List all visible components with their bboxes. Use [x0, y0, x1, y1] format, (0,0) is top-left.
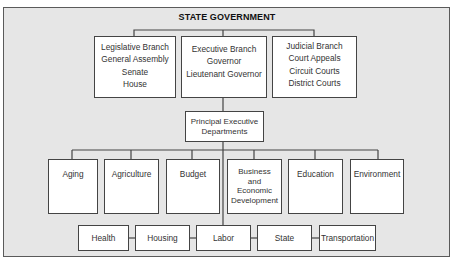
branch-line: Senate	[95, 66, 175, 78]
department-agriculture: Agriculture	[104, 159, 159, 214]
department-label: and	[228, 177, 281, 187]
department-transportation: Transportation	[319, 225, 376, 251]
branch-line: District Courts	[273, 77, 356, 89]
branch-line: Governor	[182, 55, 266, 67]
department-aging: Aging	[48, 159, 98, 214]
principal-line: Principal Executive	[191, 117, 259, 127]
department-health: Health	[78, 225, 129, 251]
department-label: Aging	[49, 168, 97, 180]
branch-line: Court Appeals	[273, 52, 356, 64]
branch-line: Circuit Courts	[273, 65, 356, 77]
department-label: Agriculture	[105, 168, 158, 180]
department-label: Business	[228, 167, 281, 177]
department-business-economic-development: Business and Economic Development	[227, 159, 282, 214]
department-environment: Environment	[350, 159, 404, 214]
department-label: Health	[92, 232, 116, 244]
department-housing: Housing	[135, 225, 190, 251]
department-label: Housing	[147, 232, 177, 244]
department-label: Economic	[228, 186, 281, 196]
principal-executive-departments-box: Principal Executive Departments	[185, 111, 264, 142]
department-label: Budget	[167, 168, 219, 180]
department-labor: Labor	[196, 225, 251, 251]
branch-line: Lieutenant Governor	[182, 68, 266, 80]
department-label: Environment	[351, 168, 403, 180]
branch-line: Judicial Branch	[273, 40, 356, 52]
legislative-branch-box: Legislative Branch General Assembly Sena…	[94, 36, 176, 98]
executive-branch-box: Executive Branch Governor Lieutenant Gov…	[181, 36, 267, 98]
branch-line: House	[95, 78, 175, 90]
branch-line: Executive Branch	[182, 43, 266, 55]
department-label: Transportation	[321, 232, 374, 244]
department-label: State	[275, 232, 294, 244]
department-label: Labor	[213, 232, 234, 244]
department-budget: Budget	[166, 159, 220, 214]
department-label: Development	[228, 196, 281, 206]
branch-line: Legislative Branch	[95, 41, 175, 53]
department-education: Education	[288, 159, 343, 214]
principal-line: Departments	[202, 127, 248, 137]
judicial-branch-box: Judicial Branch Court Appeals Circuit Co…	[272, 36, 357, 98]
department-label: Education	[289, 168, 342, 180]
branch-line: General Assembly	[95, 53, 175, 65]
department-state: State	[257, 225, 312, 251]
